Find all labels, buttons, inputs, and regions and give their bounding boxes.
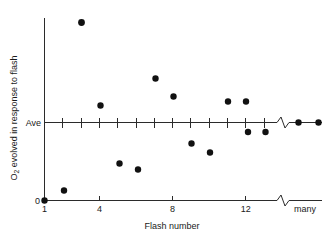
y-axis-title-pre: O <box>9 173 19 180</box>
data-point <box>41 197 47 203</box>
x-tick-label-many: many <box>294 204 317 214</box>
data-point <box>170 93 176 99</box>
data-point <box>135 166 141 172</box>
data-point <box>262 129 268 135</box>
x-tick-label-8: 8 <box>170 204 175 214</box>
y-axis-title: O2 evolved in response to flash <box>9 56 20 181</box>
data-point <box>315 119 321 125</box>
data-point <box>225 98 231 104</box>
data-point-series <box>41 19 321 204</box>
y-axis-title-post: evolved in response to flash <box>9 56 19 170</box>
svg-text:O2 evolved in response to flas: O2 evolved in response to flash <box>9 56 20 181</box>
x-axis-break-icon <box>277 195 289 206</box>
data-point <box>61 187 67 193</box>
data-point <box>97 102 103 108</box>
data-point <box>245 129 251 135</box>
chart-figure: Ave 0 1 4 8 12 many Flash number O2 evol… <box>0 0 331 238</box>
y-tick-label-ave: Ave <box>26 118 41 128</box>
data-point <box>295 119 301 125</box>
data-point <box>152 75 158 81</box>
x-tick-label-12: 12 <box>241 204 251 214</box>
x-axis-title: Flash number <box>144 221 199 231</box>
x-tick-label-4: 4 <box>97 204 102 214</box>
data-point <box>243 98 249 104</box>
data-point <box>78 19 85 26</box>
x-axis-ticks <box>99 196 245 201</box>
scatter-plot-svg: Ave 0 1 4 8 12 many Flash number O2 evol… <box>0 0 331 238</box>
average-line-break-icon <box>277 117 289 128</box>
data-point <box>116 160 122 166</box>
data-point <box>188 140 194 146</box>
x-tick-label-1: 1 <box>42 204 47 214</box>
data-point <box>207 149 213 155</box>
y-tick-label-zero: 0 <box>35 196 40 206</box>
